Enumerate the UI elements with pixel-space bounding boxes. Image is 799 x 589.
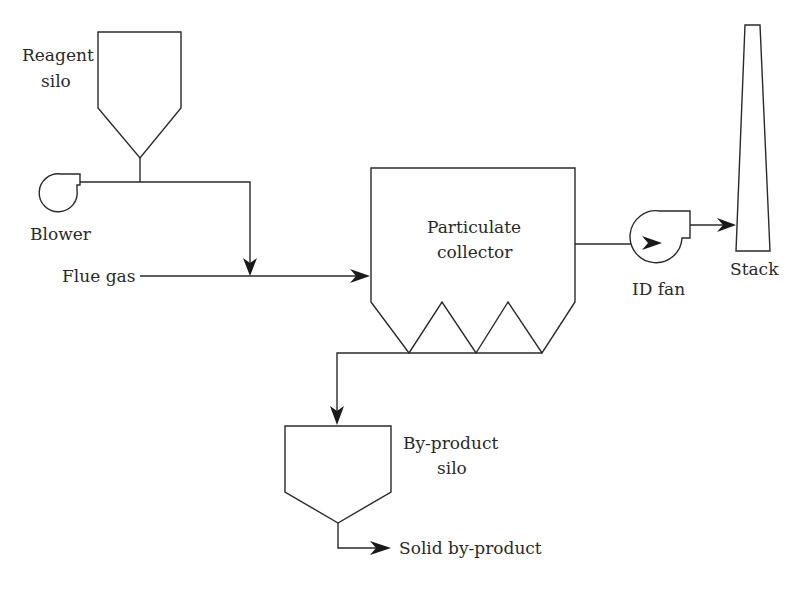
reagent-transport-line — [80, 182, 250, 266]
byproduct-transport-line — [337, 353, 542, 415]
byproduct-silo-label-line1: By-product — [403, 433, 498, 453]
id-fan-icon — [630, 211, 690, 263]
reagent-silo-label-line1: Reagent — [22, 45, 94, 65]
process-diagram: Reagent silo Blower Flue gas Particulate… — [0, 0, 799, 589]
flue-gas-label: Flue gas — [62, 266, 135, 286]
solid-byproduct-label: Solid by-product — [399, 538, 542, 558]
collector-label-line2: collector — [437, 242, 513, 262]
byproduct-silo — [285, 426, 391, 523]
collector-label-line1: Particulate — [427, 217, 521, 237]
stack — [736, 25, 770, 251]
stack-label: Stack — [730, 259, 779, 279]
byproduct-silo-label-line2: silo — [437, 458, 467, 478]
id-fan-label: ID fan — [632, 279, 685, 299]
reagent-silo-label-line2: silo — [41, 71, 71, 91]
blower-label: Blower — [30, 224, 92, 244]
blower-icon — [39, 174, 80, 212]
reagent-silo — [98, 32, 181, 158]
